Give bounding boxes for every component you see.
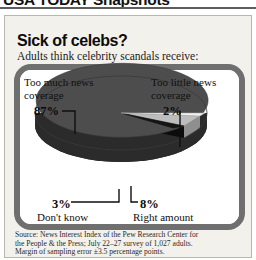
callout-value-too-much: 87% — [34, 104, 59, 119]
callout-label-too-little: Too little news coverage — [151, 76, 216, 101]
chart-subtitle: Adults think celebrity scandals receive: — [17, 50, 198, 62]
source-line-3: Margin of sampling error ±3.5 percentage… — [15, 248, 243, 257]
callout-value-too-little: 2% — [163, 104, 182, 119]
chart-title: Sick of celebs? — [17, 32, 128, 50]
snapshot-card: Sick of celebs? Adults think celebrity s… — [4, 15, 252, 258]
callout-label-too-much: Too much news coverage — [24, 76, 94, 101]
callout-value-dont-know: 3% — [52, 197, 71, 212]
callout-value-right-amount: 8% — [140, 197, 159, 212]
masthead-rule — [0, 7, 256, 9]
usa-today-snapshot-figure: USA TODAY Snapshots Sick of celebs? Adul… — [0, 0, 256, 260]
callout-label-dont-know: Don't know — [37, 211, 88, 224]
masthead: USA TODAY Snapshots — [0, 0, 256, 11]
source-note: Source: News Interest Index of the Pew R… — [15, 231, 243, 257]
callout-label-right-amount: Right amount — [133, 211, 193, 224]
